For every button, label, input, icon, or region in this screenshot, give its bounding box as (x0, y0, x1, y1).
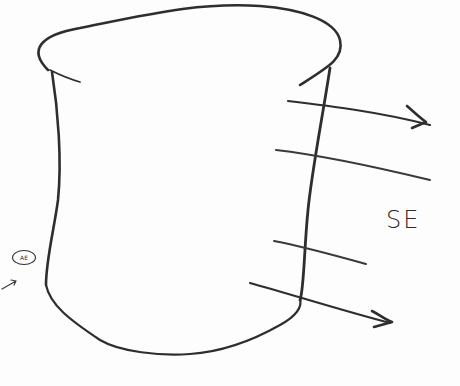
flux-line-1 (288, 101, 430, 125)
flux-line-4 (250, 283, 390, 323)
flux-line-2 (276, 150, 430, 180)
sketch-drawing (0, 0, 460, 386)
se-label: SE (386, 206, 420, 234)
arrowhead-1-icon (407, 106, 426, 128)
cylinder-top-rim (38, 5, 340, 85)
circled-symbol: AE (12, 250, 36, 265)
cylinder-left-wall (46, 72, 60, 285)
small-arrow-icon (2, 280, 16, 289)
cylinder-bottom (46, 285, 301, 354)
sketch-canvas: SE AE (0, 0, 460, 386)
flux-line-3 (274, 241, 366, 264)
